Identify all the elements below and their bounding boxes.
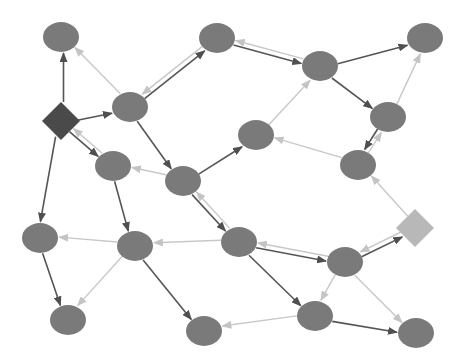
edges-layer [40,41,420,333]
ellipse-node-G [370,102,406,132]
diamond-node-D1 [42,102,80,140]
edge-D1-to-J-arrow [70,132,99,157]
ellipse-node-Q [186,316,222,346]
ellipse-node-C [199,23,235,53]
edge-E-to-G-arrow [332,78,372,108]
ellipse-node-L [22,223,58,253]
ellipse-node-R [297,301,333,331]
ellipse-node-N [221,227,257,257]
edge-O-to-R-arrow [321,274,335,300]
ellipse-node-A [43,22,79,52]
ellipse-node-F [407,23,443,53]
ellipse-node-E [302,51,338,81]
edge-B-to-A-arrow [75,48,121,94]
edge-N-to-R-arrow [249,255,301,306]
edge-C-to-E-arrow [234,45,302,63]
edge-M-to-L-arrow [59,237,117,242]
edge-D2-to-O-arrow [360,232,401,252]
ellipse-node-K [165,166,201,196]
edge-J-to-D1-arrow [74,129,103,154]
edge-K-to-N-arrow [192,195,225,231]
edge-M-to-P-arrow [78,256,123,305]
edge-G-to-F-arrow [397,54,421,104]
ellipse-node-I [340,150,376,180]
edge-R-to-Q-arrow [222,316,297,326]
graph-canvas [0,0,471,363]
edge-B-to-C-arrow [145,51,205,99]
edge-I-to-H-arrow [275,138,342,158]
edge-L-to-P-arrow [43,253,61,305]
edge-I-to-G-arrow [368,133,381,154]
edge-O-to-D2-arrow [362,237,403,257]
edge-H-to-E-arrow [269,80,310,125]
edge-M-to-Q-arrow [143,260,191,319]
edge-E-to-F-arrow [338,45,408,64]
edge-K-to-J-arrow [132,168,166,175]
edge-N-to-M-arrow [154,240,221,243]
edge-R-to-S-arrow [332,321,397,332]
ellipse-node-M [117,231,153,261]
edge-K-to-H-arrow [199,147,242,174]
edge-J-to-M-arrow [115,181,129,231]
edge-D1-to-B-arrow [77,113,112,120]
edge-O-to-S-arrow [355,275,402,322]
edge-C-to-B-arrow [142,46,202,94]
edge-D1-to-L-arrow [40,137,55,222]
edge-D2-to-I-arrow [371,176,407,216]
ellipse-node-S [398,318,434,348]
ellipse-node-J [95,151,131,181]
edge-N-to-K-arrow [197,192,230,228]
ellipse-node-B [112,92,148,122]
ellipse-node-P [50,305,86,335]
edge-G-to-I-arrow [365,129,378,150]
ellipse-node-H [238,120,274,150]
ellipse-node-O [327,247,363,277]
diamond-node-D2 [396,209,434,247]
edge-B-to-K-arrow [137,121,171,169]
directed-graph [0,0,471,363]
edge-E-to-C-arrow [236,41,304,59]
